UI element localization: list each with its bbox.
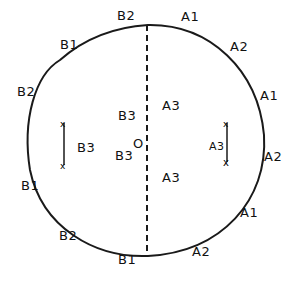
label-a1: A1	[260, 89, 278, 102]
label-a3: A3	[162, 171, 180, 184]
circle-outline	[28, 25, 265, 256]
label-b2: B2	[59, 229, 77, 242]
label-a2: A2	[264, 150, 282, 163]
right-segment-bottom-mark: x	[223, 157, 229, 168]
label-b1: B1	[21, 179, 39, 192]
label-a2: A2	[192, 245, 210, 258]
right-segment-top-mark: x	[223, 119, 229, 129]
left-segment-top-mark: x	[60, 119, 66, 129]
left-segment-bottom-mark: x	[60, 161, 66, 171]
label-b1: B1	[118, 253, 136, 266]
label-b3: B3	[115, 149, 133, 162]
label-b2: B2	[17, 85, 35, 98]
label-a2: A2	[230, 40, 248, 53]
label-a3: A3	[209, 141, 225, 152]
label-b3: B3	[77, 141, 95, 154]
label-o: O	[133, 137, 144, 150]
label-a1: A1	[240, 206, 258, 219]
label-b2: B2	[117, 9, 135, 22]
label-b3: B3	[118, 109, 136, 122]
diagram-canvas: x x x x	[0, 0, 298, 283]
label-a3: A3	[162, 99, 180, 112]
label-a1: A1	[181, 10, 199, 23]
label-b1: B1	[60, 38, 78, 51]
